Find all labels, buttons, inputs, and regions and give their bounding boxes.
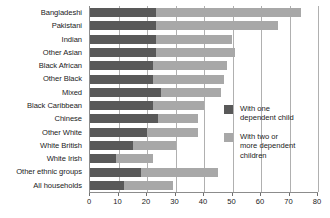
- bar-stack: [90, 35, 232, 44]
- x-tick-label: 10: [108, 197, 128, 206]
- bar-stack: [90, 181, 173, 190]
- x-tick-label: 50: [222, 197, 242, 206]
- bar-row: [90, 6, 301, 19]
- x-axis: 01020304050607080: [89, 193, 317, 215]
- bar-row: [90, 19, 278, 32]
- category-label: Bangladeshi: [0, 6, 86, 19]
- bar-segment-two-or-more-children: [161, 88, 221, 97]
- legend-entry: With two or more dependent children: [224, 132, 324, 160]
- bar-stack: [90, 21, 278, 30]
- bar-row: [90, 126, 198, 139]
- bar-segment-two-or-more-children: [147, 128, 198, 137]
- x-tick-mark: [89, 193, 90, 196]
- legend-swatch: [224, 105, 233, 114]
- category-label: All households: [0, 179, 86, 192]
- category-label: Mixed: [0, 86, 86, 99]
- x-tick-label: 60: [250, 197, 270, 206]
- bar-row: [90, 165, 218, 178]
- legend-swatch: [224, 133, 233, 142]
- legend-entry: With one dependent child: [224, 104, 324, 123]
- bar-segment-one-child: [90, 61, 153, 70]
- bar-row: [90, 179, 173, 192]
- x-tick-mark: [175, 193, 176, 196]
- bar-stack: [90, 128, 198, 137]
- x-tick-mark: [118, 193, 119, 196]
- bar-segment-two-or-more-children: [153, 75, 224, 84]
- legend-label: With one dependent child: [240, 104, 294, 123]
- bar-stack: [90, 114, 198, 123]
- category-label: White Irish: [0, 152, 86, 165]
- category-label: White British: [0, 139, 86, 152]
- bar-segment-two-or-more-children: [156, 48, 236, 57]
- stacked-bar-chart: BangladeshiPakistaniIndianOther AsianBla…: [0, 0, 330, 218]
- bar-segment-one-child: [90, 8, 156, 17]
- bar-segment-one-child: [90, 21, 156, 30]
- bar-segment-one-child: [90, 48, 156, 57]
- chart-legend: With one dependent childWith two or more…: [224, 104, 324, 169]
- bar-segment-one-child: [90, 141, 133, 150]
- bar-row: [90, 112, 198, 125]
- bar-row: [90, 99, 204, 112]
- x-tick-mark: [203, 193, 204, 196]
- bar-segment-two-or-more-children: [153, 61, 227, 70]
- bar-segment-one-child: [90, 114, 158, 123]
- x-tick-label: 0: [79, 197, 99, 206]
- bar-stack: [90, 48, 235, 57]
- bar-stack: [90, 61, 227, 70]
- bar-stack: [90, 8, 301, 17]
- legend-label: With two or more dependent children: [240, 132, 295, 160]
- x-tick-label: 80: [307, 197, 327, 206]
- bar-stack: [90, 141, 176, 150]
- bar-segment-one-child: [90, 35, 156, 44]
- category-label: Chinese: [0, 112, 86, 125]
- bar-stack: [90, 101, 204, 110]
- x-tick-label: 40: [193, 197, 213, 206]
- bar-row: [90, 33, 232, 46]
- bar-segment-two-or-more-children: [133, 141, 176, 150]
- bar-segment-two-or-more-children: [156, 35, 233, 44]
- bar-segment-two-or-more-children: [124, 181, 172, 190]
- x-tick-label: 20: [136, 197, 156, 206]
- bar-stack: [90, 154, 153, 163]
- category-label: Black Caribbean: [0, 99, 86, 112]
- x-tick-mark: [289, 193, 290, 196]
- bar-segment-two-or-more-children: [156, 21, 279, 30]
- x-tick-mark: [260, 193, 261, 196]
- x-tick-label: 70: [279, 197, 299, 206]
- x-tick-mark: [146, 193, 147, 196]
- bar-segment-one-child: [90, 75, 153, 84]
- bar-segment-one-child: [90, 181, 124, 190]
- x-tick-mark: [317, 193, 318, 196]
- bar-stack: [90, 88, 221, 97]
- bar-segment-one-child: [90, 154, 116, 163]
- bar-stack: [90, 75, 224, 84]
- bar-stack: [90, 168, 218, 177]
- bar-row: [90, 59, 227, 72]
- x-tick-label: 30: [165, 197, 185, 206]
- bar-row: [90, 86, 221, 99]
- bar-row: [90, 152, 153, 165]
- category-label: Other Asian: [0, 46, 86, 59]
- category-label: Other White: [0, 126, 86, 139]
- bar-segment-two-or-more-children: [116, 154, 153, 163]
- bar-row: [90, 46, 235, 59]
- x-tick-mark: [232, 193, 233, 196]
- bar-segment-one-child: [90, 128, 147, 137]
- bar-segment-one-child: [90, 101, 153, 110]
- category-label: Other Black: [0, 72, 86, 85]
- category-axis-labels: BangladeshiPakistaniIndianOther AsianBla…: [0, 6, 86, 192]
- bar-row: [90, 139, 176, 152]
- bar-segment-two-or-more-children: [141, 168, 218, 177]
- bar-segment-two-or-more-children: [158, 114, 198, 123]
- bar-segment-two-or-more-children: [156, 8, 301, 17]
- category-label: Other ethnic groups: [0, 165, 86, 178]
- category-label: Pakistani: [0, 19, 86, 32]
- bar-segment-one-child: [90, 88, 161, 97]
- bar-row: [90, 72, 224, 85]
- bar-segment-two-or-more-children: [153, 101, 204, 110]
- bar-segment-one-child: [90, 168, 141, 177]
- category-label: Indian: [0, 33, 86, 46]
- category-label: Black African: [0, 59, 86, 72]
